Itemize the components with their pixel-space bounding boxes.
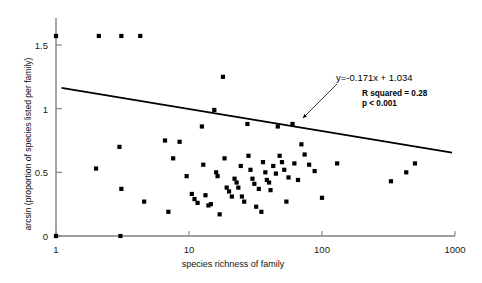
data-point	[299, 142, 303, 146]
data-point	[138, 34, 142, 38]
data-point	[278, 154, 282, 158]
data-point	[203, 193, 207, 197]
data-point	[117, 145, 121, 149]
data-point	[119, 34, 123, 38]
data-point	[232, 177, 236, 181]
data-point	[389, 179, 393, 183]
y-tick-label: 1.5	[22, 40, 48, 51]
data-point	[280, 160, 284, 164]
data-point	[230, 194, 234, 198]
data-point	[54, 34, 58, 38]
data-point	[276, 124, 280, 128]
data-point	[282, 168, 286, 172]
data-point	[185, 174, 189, 178]
data-point	[142, 200, 146, 204]
data-point	[261, 160, 265, 164]
data-point	[404, 170, 408, 174]
plot-canvas	[0, 0, 482, 283]
data-point	[221, 75, 225, 79]
data-point	[118, 234, 122, 238]
axes	[56, 18, 455, 236]
data-point	[248, 168, 252, 172]
data-point	[201, 163, 205, 167]
x-tick-label: 1000	[444, 244, 465, 255]
data-point	[166, 210, 170, 214]
x-tick-label: 10	[184, 244, 195, 255]
r-squared-label: R squared = 0.28	[362, 89, 427, 98]
data-point	[227, 189, 231, 193]
data-point	[54, 234, 58, 238]
data-point	[225, 186, 229, 190]
p-value-label: p < 0.001	[362, 99, 397, 108]
regression-equation-label: y=-0.171x + 1.034	[336, 72, 413, 83]
x-axis-label: species richness of family	[182, 259, 285, 269]
x-tick-label: 100	[314, 244, 330, 255]
data-point	[215, 174, 219, 178]
data-point	[94, 166, 98, 170]
data-point	[163, 138, 167, 142]
data-point	[257, 187, 261, 191]
data-point	[274, 172, 278, 176]
data-point	[267, 180, 271, 184]
data-point	[303, 152, 307, 156]
data-points	[54, 34, 417, 238]
data-point	[259, 210, 263, 214]
data-point	[245, 122, 249, 126]
data-point	[178, 140, 182, 144]
data-point	[271, 164, 275, 168]
annotation-arrow-line	[303, 84, 337, 118]
data-point	[218, 212, 222, 216]
data-point	[292, 161, 296, 165]
y-tick-label: 0.5	[22, 167, 48, 178]
annotation-arrow	[303, 84, 337, 118]
data-point	[284, 200, 288, 204]
data-point	[171, 156, 175, 160]
data-point	[240, 194, 244, 198]
data-point	[313, 169, 317, 173]
y-tick-label: 0	[22, 231, 48, 242]
data-point	[212, 108, 216, 112]
data-point	[235, 180, 239, 184]
data-point	[190, 192, 194, 196]
data-point	[246, 154, 250, 158]
data-point	[413, 161, 417, 165]
data-point	[263, 170, 267, 174]
data-point	[307, 163, 311, 167]
data-point	[200, 124, 204, 128]
x-axis-label-wrap: species richness of family	[0, 259, 482, 269]
data-point	[242, 200, 246, 204]
scatter-plot-figure: arcsin (proportion of species listed per…	[0, 0, 482, 283]
data-point	[252, 182, 256, 186]
y-tick-label: 1	[22, 103, 48, 114]
data-point	[209, 202, 213, 206]
data-point	[214, 170, 218, 174]
data-point	[268, 188, 272, 192]
data-point	[119, 187, 123, 191]
data-point	[236, 186, 240, 190]
data-point	[320, 196, 324, 200]
data-point	[286, 175, 290, 179]
data-point	[296, 178, 300, 182]
data-point	[222, 156, 226, 160]
data-point	[195, 201, 199, 205]
data-point	[97, 34, 101, 38]
data-point	[239, 164, 243, 168]
x-tick-label: 1	[53, 244, 58, 255]
data-point	[250, 177, 254, 181]
y-axis-label: arcsin (proportion of species listed per…	[23, 44, 33, 244]
data-point	[254, 205, 258, 209]
data-point	[192, 197, 196, 201]
data-point	[335, 161, 339, 165]
